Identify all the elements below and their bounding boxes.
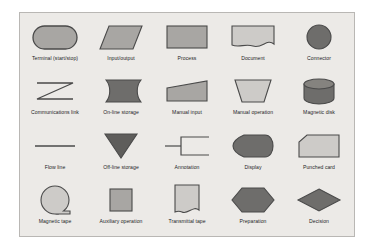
symbol-label: Magnetic tape <box>39 219 72 225</box>
symbol-label: Manual operation <box>233 110 273 116</box>
auxiliary-operation-square-icon <box>90 183 152 217</box>
symbol-label: Punched card <box>303 165 335 171</box>
flowchart-symbols-panel: Terminal (start/stop) Input/output Proce… <box>19 12 355 237</box>
symbol-cell-document: Document <box>220 17 286 71</box>
symbol-grid: Terminal (start/stop) Input/output Proce… <box>20 13 354 236</box>
document-wavy-icon <box>222 20 284 54</box>
symbol-cell-display: Display <box>220 126 286 180</box>
flow-line-icon <box>24 129 86 163</box>
magnetic-tape-circle-tail-icon <box>24 183 86 217</box>
manual-input-slanted-icon <box>156 74 218 108</box>
symbol-cell-transmittal-tape: Transmittal tape <box>154 180 220 234</box>
symbol-cell-magnetic-tape: Magnetic tape <box>22 180 88 234</box>
connector-circle-icon <box>288 20 350 54</box>
online-storage-curved-block-icon <box>90 74 152 108</box>
symbol-label: Connector <box>307 56 331 62</box>
transmittal-tape-wavy-icon <box>156 183 218 217</box>
symbol-cell-flow-line: Flow line <box>22 126 88 180</box>
symbol-label: On-line storage <box>103 110 139 116</box>
terminal-stadium-icon <box>24 20 86 54</box>
symbol-label: Auxiliary operation <box>100 219 143 225</box>
symbol-cell-offline-storage: Off-line storage <box>88 126 154 180</box>
symbol-label: Display <box>244 165 261 171</box>
symbol-cell-process: Process <box>154 17 220 71</box>
symbol-cell-terminal: Terminal (start/stop) <box>22 17 88 71</box>
symbol-cell-input-output: Input/output <box>88 17 154 71</box>
symbol-label: Manual input <box>172 110 202 116</box>
symbol-cell-preparation: Preparation <box>220 180 286 234</box>
symbol-cell-manual-input: Manual input <box>154 71 220 125</box>
symbol-label: Annotation <box>175 165 200 171</box>
symbol-label: Input/output <box>107 56 135 62</box>
symbol-label: Process <box>178 56 197 62</box>
manual-operation-trapezoid-icon <box>222 74 284 108</box>
offline-storage-triangle-icon <box>90 129 152 163</box>
decision-diamond-icon <box>288 183 350 217</box>
symbol-cell-online-storage: On-line storage <box>88 71 154 125</box>
symbol-cell-punched-card: Punched card <box>286 126 352 180</box>
display-lens-icon <box>222 129 284 163</box>
symbol-label: Document <box>241 56 265 62</box>
communications-link-zigzag-icon <box>24 74 86 108</box>
symbol-label: Transmittal tape <box>168 219 205 225</box>
process-rectangle-icon <box>156 20 218 54</box>
preparation-hexagon-icon <box>222 183 284 217</box>
magnetic-disk-cylinder-icon <box>288 74 350 108</box>
symbol-cell-decision: Decision <box>286 180 352 234</box>
symbol-cell-magnetic-disk: Magnetic disk <box>286 71 352 125</box>
symbol-cell-manual-operation: Manual operation <box>220 71 286 125</box>
annotation-bracket-icon <box>156 129 218 163</box>
symbol-cell-annotation: Annotation <box>154 126 220 180</box>
symbol-label: Flow line <box>45 165 66 171</box>
symbol-cell-connector: Connector <box>286 17 352 71</box>
symbol-label: Decision <box>309 219 329 225</box>
symbol-label: Terminal (start/stop) <box>32 56 78 62</box>
punched-card-clipped-icon <box>288 129 350 163</box>
symbol-cell-auxiliary-operation: Auxiliary operation <box>88 180 154 234</box>
symbol-cell-communications-link: Communications link <box>22 71 88 125</box>
symbol-label: Preparation <box>240 219 267 225</box>
symbol-label: Communications link <box>31 110 79 116</box>
symbol-label: Magnetic disk <box>303 110 335 116</box>
symbol-label: Off-line storage <box>103 165 139 171</box>
input-output-parallelogram-icon <box>90 20 152 54</box>
